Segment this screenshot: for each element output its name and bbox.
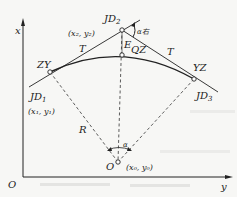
bleed-through-text	[40, 110, 235, 187]
y-axis-label: y	[220, 181, 227, 192]
qz-label: QZ	[131, 44, 147, 55]
jd2-coord: (x₂, y₂)	[68, 29, 95, 38]
center-coord: (x₀, y₀)	[126, 163, 153, 172]
jd2-label: JD2	[102, 13, 121, 26]
circular-curve	[50, 57, 194, 79]
yz-label: YZ	[193, 62, 208, 73]
central-angle-arc	[107, 147, 132, 151]
zy-point	[48, 70, 52, 74]
curve-element-diagram: x y O JD2 (x₂, y₂) T T α右 E QZ ZY YZ JD1…	[0, 0, 237, 197]
deflection-angle-arrow	[131, 22, 135, 37]
tangent-right-label: T	[167, 46, 175, 57]
jd1-label: JD1	[28, 91, 47, 104]
origin-label: O	[8, 179, 16, 190]
x-axis-label: x	[15, 25, 21, 36]
qz-point	[120, 53, 124, 57]
deflection-angle-label: α右	[137, 28, 150, 36]
zy-label: ZY	[36, 59, 52, 70]
center-label: O	[106, 161, 114, 172]
center-point	[116, 160, 120, 164]
jd1-coord: (x₁, y₁)	[28, 107, 55, 116]
yz-point	[192, 77, 196, 81]
jd3-label: JD3	[194, 90, 213, 103]
radius-label: R	[78, 124, 87, 135]
central-angle-label: α	[123, 141, 128, 149]
y-axis-arrow-icon	[225, 175, 233, 179]
jd2-point	[120, 28, 124, 32]
x-axis-arrow-icon	[21, 18, 25, 26]
